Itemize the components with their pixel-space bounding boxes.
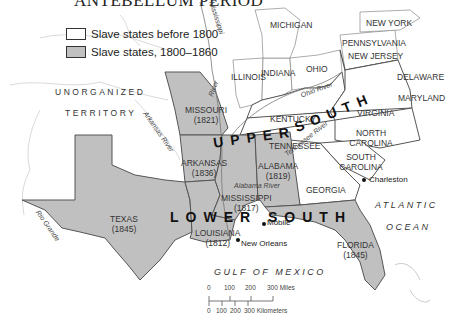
label-maryland: MARYLAND	[398, 93, 445, 103]
admission-year: (1819)	[258, 171, 298, 181]
scale-miles-0: 0	[207, 284, 211, 291]
michigan-shape	[255, 8, 300, 58]
state-name: LOUISIANA	[195, 228, 240, 238]
admission-year: (1821)	[185, 115, 227, 125]
state-name: ALABAMA	[258, 161, 298, 171]
legend-label: Slave states, 1800–1860	[91, 46, 218, 58]
admission-year: (1836)	[181, 168, 227, 178]
label-unorganized: UNORGANIZED	[55, 87, 145, 97]
city-dot-new-orleans	[236, 238, 240, 242]
scale-miles-200: 200	[245, 284, 256, 291]
label-pennsylvania: PENNSYLVANIA	[342, 38, 406, 48]
label-charleston: Charleston	[369, 175, 408, 184]
label-alabama-river: Alabama River	[234, 182, 280, 189]
legend-item-1800-1860: Slave states, 1800–1860	[66, 43, 218, 60]
label-delaware: DELAWARE	[397, 72, 444, 82]
scale-km-300: 300 Kilometers	[244, 307, 287, 314]
label-alabama: ALABAMA (1819)	[258, 161, 298, 181]
label-michigan: MICHIGAN	[270, 20, 313, 30]
scale-km-0: 0	[207, 307, 211, 314]
label-north-carolina: NORTH CAROLINA	[346, 128, 396, 148]
scale-km-100: 100	[216, 307, 227, 314]
legend: Slave states before 1800 Slave states, 1…	[66, 25, 218, 61]
region-lower: LOWER	[170, 209, 257, 225]
label-mobile: Mobile	[267, 218, 291, 227]
state-name: ARKANSAS	[181, 158, 227, 168]
legend-swatch-gray	[66, 46, 86, 58]
label-texas: TEXAS (1845)	[110, 214, 138, 234]
legend-item-before-1800: Slave states before 1800	[66, 25, 218, 42]
label-georgia: GEORGIA	[306, 185, 346, 195]
label-south-carolina: SOUTH CAROLINA	[336, 152, 386, 172]
scale-miles-100: 100	[224, 284, 235, 291]
city-dot-charleston	[362, 178, 366, 182]
label-louisiana: LOUISIANA (1812)	[195, 228, 240, 248]
label-atlantic: ATLANTIC	[375, 200, 438, 210]
scale-miles-300: 300 Miles	[267, 284, 295, 291]
legend-label: Slave states before 1800	[91, 28, 218, 40]
label-territory: TERRITORY	[65, 108, 136, 118]
label-new-jersey: NEW JERSEY	[348, 51, 403, 61]
label-new-orleans: New Orleans	[241, 239, 287, 248]
label-arkansas: ARKANSAS (1836)	[181, 158, 227, 178]
scale-km-200: 200	[230, 307, 241, 314]
admission-year: (1845)	[110, 224, 138, 234]
label-gulf-of-mexico: GULF OF MEXICO	[214, 267, 326, 277]
label-ohio: OHIO	[306, 64, 328, 74]
state-name: MISSOURI	[185, 105, 227, 115]
state-name: FLORIDA	[337, 240, 374, 250]
state-name: TEXAS	[110, 214, 138, 224]
admission-year: (1845)	[337, 250, 374, 260]
label-florida: FLORIDA (1845)	[337, 240, 374, 260]
city-dot-mobile	[262, 222, 266, 226]
label-ocean: OCEAN	[386, 222, 431, 232]
texas-shape	[22, 135, 192, 280]
legend-swatch-white	[66, 28, 86, 40]
map-title: ANTEBELLUM PERIOD	[74, 0, 263, 11]
state-name: MISSISSIPPI	[221, 193, 272, 203]
label-new-york: NEW YORK	[366, 18, 412, 28]
label-missouri: MISSOURI (1821)	[185, 105, 227, 125]
illinois-shape	[233, 58, 263, 108]
admission-year: (1812)	[195, 238, 240, 248]
label-virginia: VIRGINIA	[357, 108, 394, 118]
label-indiana: INDIANA	[261, 68, 295, 78]
